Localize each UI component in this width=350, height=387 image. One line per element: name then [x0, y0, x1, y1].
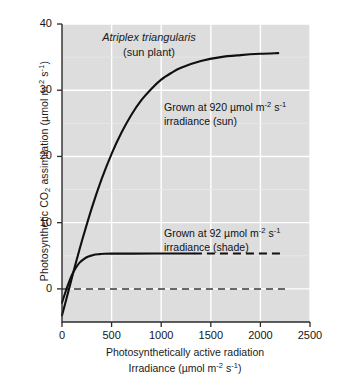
x-axis-title-line2: Irradiance (µmol m-2 s-1) — [40, 360, 330, 376]
species-subtitle: (sun plant) — [74, 45, 224, 60]
x-tick-label: 1000 — [141, 329, 181, 341]
x-axis-title: Photosynthetically active radiation Irra… — [40, 344, 330, 376]
plot-background — [62, 24, 310, 322]
x-tick-label: 2000 — [240, 329, 280, 341]
annotation-shade-line1: Grown at 92 µmol m-2 s-1 — [164, 226, 280, 240]
photosynthesis-light-response-chart: Photosynthetic CO2 assimilation (µmol m-… — [0, 0, 350, 387]
y-axis-title: Photosynthetic CO2 assimilation (µmol m-… — [38, 21, 50, 321]
y-tick-label: 30 — [26, 83, 52, 95]
annotation-sun-series: Grown at 920 µmol m-2 s-1 irradiance (su… — [164, 100, 286, 128]
annotation-shade-line2: irradiance (shade) — [164, 240, 280, 254]
annotation-sun-line1: Grown at 920 µmol m-2 s-1 — [164, 100, 286, 114]
x-tick-label: 0 — [42, 329, 82, 341]
annotation-sun-line2: irradiance (sun) — [164, 114, 286, 128]
annotation-shade-series: Grown at 92 µmol m-2 s-1 irradiance (sha… — [164, 226, 280, 254]
chart-title: Atriplex triangularis (sun plant) — [74, 30, 224, 59]
x-tick-label: 2500 — [290, 329, 330, 341]
x-tick-label: 1500 — [191, 329, 231, 341]
x-tick-label: 500 — [92, 329, 132, 341]
x-axis-title-line1: Photosynthetically active radiation — [40, 344, 330, 360]
y-tick-label: 10 — [26, 216, 52, 228]
y-tick-label: 0 — [26, 282, 52, 294]
y-tick-label: 20 — [26, 149, 52, 161]
species-name: Atriplex triangularis — [74, 30, 224, 45]
y-tick-label: 40 — [26, 17, 52, 29]
